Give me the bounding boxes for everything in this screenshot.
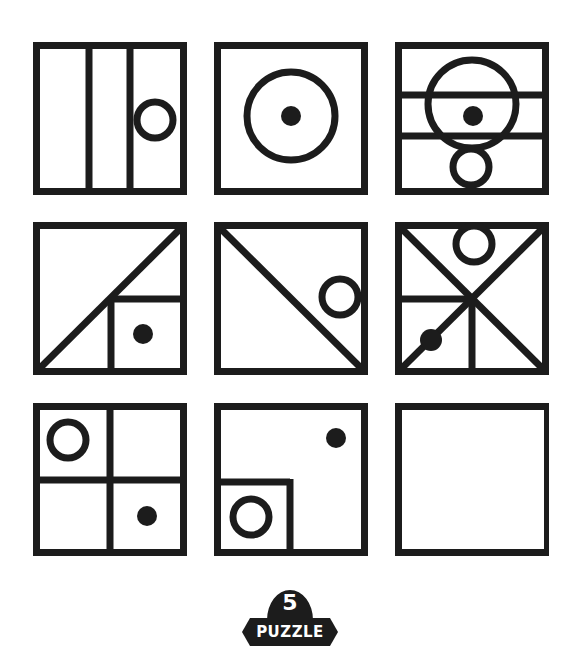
empty-answer-square	[395, 403, 549, 556]
puzzle-cell-1-1	[33, 42, 187, 195]
diagonal-circle-figure	[214, 222, 368, 375]
solid-dot-icon	[281, 106, 301, 126]
hollow-circle-icon	[137, 102, 173, 138]
x-diagonals-circle-dot-figure	[395, 222, 549, 375]
puzzle-cell-2-2	[214, 222, 368, 375]
hollow-circle-icon	[233, 499, 269, 535]
diagonal-small-square-dot-figure	[33, 222, 187, 375]
puzzle-cell-2-1	[33, 222, 187, 375]
puzzle-label: PUZZLE	[240, 621, 340, 643]
three-columns-circle-figure	[33, 42, 187, 195]
puzzle-cell-3-1	[33, 403, 187, 556]
solid-dot-icon	[133, 324, 153, 344]
stripes-two-circles-figure	[395, 42, 549, 195]
hollow-circle-icon	[456, 226, 492, 262]
hollow-circle-icon	[322, 279, 358, 315]
puzzle-number: 5	[240, 591, 340, 615]
quadrants-circle-dot-figure	[33, 403, 187, 556]
puzzle-cell-1-3	[395, 42, 549, 195]
puzzle-cell-1-2	[214, 42, 368, 195]
circle-with-dot-figure	[214, 42, 368, 195]
puzzle-cell-2-3	[395, 222, 549, 375]
puzzle-number-badge: 5 PUZZLE	[240, 588, 340, 650]
corner-square-circle-dot-figure	[214, 403, 368, 556]
puzzle-cell-3-3-answer[interactable]	[395, 403, 549, 556]
solid-dot-icon	[137, 506, 157, 526]
solid-dot-icon	[463, 106, 483, 126]
solid-dot-icon	[420, 329, 442, 351]
small-hollow-circle-icon	[453, 149, 489, 185]
hollow-circle-icon	[50, 422, 86, 458]
solid-dot-icon	[326, 428, 346, 448]
puzzle-cell-3-2	[214, 403, 368, 556]
